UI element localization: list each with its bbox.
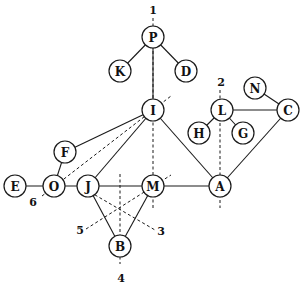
cut-label-2: 2	[217, 76, 225, 89]
node-label: E	[10, 180, 19, 194]
node-o: O	[43, 175, 65, 197]
cut-label-6: 6	[29, 196, 37, 209]
node-p: P	[142, 26, 164, 48]
node-label: N	[250, 82, 261, 96]
nodes-layer: PKDILNCHGFEOJMAB	[4, 26, 299, 257]
node-b: B	[109, 235, 131, 257]
node-g: G	[232, 122, 254, 144]
node-d: D	[175, 60, 197, 82]
cut-label-5: 5	[76, 224, 84, 237]
node-label: F	[61, 146, 70, 160]
node-label: C	[283, 104, 293, 118]
node-label: P	[148, 31, 157, 45]
node-a: A	[209, 175, 231, 197]
edge-c-a	[220, 110, 288, 186]
node-label: B	[115, 240, 125, 254]
node-c: C	[277, 99, 299, 121]
node-m: M	[142, 175, 164, 197]
node-e: E	[4, 175, 26, 197]
node-n: N	[244, 77, 266, 99]
node-label: A	[214, 180, 225, 194]
cut-label-3: 3	[157, 225, 165, 238]
node-f: F	[54, 141, 76, 163]
edge-i-f	[65, 110, 153, 152]
node-label: K	[115, 65, 126, 79]
node-i: I	[142, 99, 164, 121]
node-label: O	[49, 180, 59, 194]
node-label: I	[150, 104, 156, 118]
node-label: M	[146, 180, 159, 194]
node-label: D	[181, 65, 191, 79]
cut-line-3	[90, 192, 155, 230]
node-label: H	[193, 127, 204, 141]
node-j: J	[77, 175, 99, 197]
node-h: H	[188, 122, 210, 144]
graph-diagram: PKDILNCHGFEOJMAB 123456	[0, 0, 300, 284]
node-l: L	[211, 99, 233, 121]
node-label: G	[238, 127, 248, 141]
cut-label-4: 4	[117, 272, 125, 284]
node-label: J	[84, 180, 91, 194]
cut-label-1: 1	[149, 4, 157, 17]
node-label: L	[218, 104, 227, 118]
node-k: K	[109, 60, 131, 82]
